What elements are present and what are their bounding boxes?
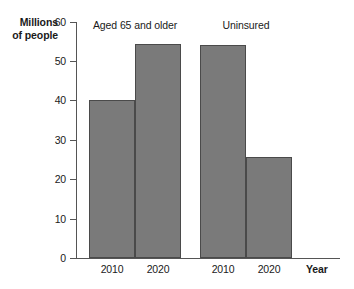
y-tick-30: [70, 140, 76, 141]
bar-aged65-2020: [135, 44, 181, 258]
y-axis-title-line2: of people: [0, 29, 58, 42]
y-tick-0: [70, 258, 76, 259]
x-axis-title: Year: [306, 263, 328, 275]
group-label-uninsured: Uninsured: [196, 19, 296, 31]
y-tick-label-0: 0: [44, 253, 66, 263]
y-axis-line: [76, 22, 77, 259]
x-label-uninsured-2020: 2020: [246, 263, 292, 275]
y-tick-label-40: 40: [44, 95, 66, 105]
y-tick-20: [70, 179, 76, 180]
bar-uninsured-2010: [200, 45, 246, 258]
y-tick-label-50: 50: [44, 56, 66, 66]
x-label-aged65-2020: 2020: [135, 263, 181, 275]
x-label-aged65-2010: 2010: [89, 263, 135, 275]
y-tick-label-10: 10: [44, 214, 66, 224]
x-axis-line: [76, 258, 340, 259]
y-tick-label-30: 30: [44, 135, 66, 145]
y-tick-label-20: 20: [44, 174, 66, 184]
bar-uninsured-2020: [246, 157, 292, 258]
y-tick-label-60: 60: [44, 17, 66, 27]
y-tick-40: [70, 100, 76, 101]
y-tick-50: [70, 61, 76, 62]
x-label-uninsured-2010: 2010: [200, 263, 246, 275]
bar-chart: Millions of people 60 50 40 30 20 10 0 A…: [0, 0, 354, 289]
group-label-aged65: Aged 65 and older: [85, 19, 185, 31]
y-tick-60: [70, 22, 76, 23]
y-tick-10: [70, 219, 76, 220]
bar-aged65-2010: [89, 100, 135, 258]
